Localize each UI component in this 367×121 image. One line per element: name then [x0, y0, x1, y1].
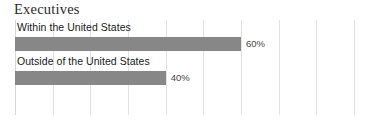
bar-value-label: 60%: [246, 38, 265, 50]
bar-series: Within the United States 60% Outside of …: [15, 20, 354, 115]
gridline: [354, 20, 355, 115]
bar-within-the-united-states[interactable]: [15, 37, 241, 51]
bar-value-label: 40%: [171, 72, 190, 84]
plot-area: Within the United States 60% Outside of …: [15, 20, 354, 115]
bar-category-label: Outside of the United States: [17, 55, 150, 68]
chart-screenshot: Executives Within the United States 60% …: [0, 0, 367, 121]
chart-title: Executives: [14, 1, 80, 18]
bar-outside-of-the-united-states[interactable]: [15, 71, 166, 85]
bar-category-label: Within the United States: [17, 21, 131, 34]
bar-row[interactable]: Within the United States 60%: [15, 20, 354, 54]
bar-row[interactable]: Outside of the United States 40%: [15, 54, 354, 88]
